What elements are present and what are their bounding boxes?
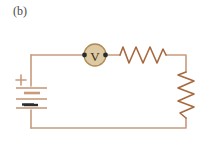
circuit-diagram: V (0, 0, 210, 143)
voltmeter-terminal-right (103, 53, 108, 58)
resistor-top-zigzag (120, 47, 166, 63)
resistor-right (178, 72, 194, 118)
voltmeter-symbol: V (90, 49, 100, 64)
voltmeter: V (82, 44, 108, 66)
wire-top-right (166, 55, 186, 72)
voltmeter-terminal-left (82, 53, 87, 58)
wire-bottom (31, 118, 186, 128)
battery-polarity (16, 75, 26, 85)
resistor-right-zigzag (178, 72, 194, 118)
resistor-top (120, 47, 166, 63)
circuit-wires (31, 55, 186, 128)
